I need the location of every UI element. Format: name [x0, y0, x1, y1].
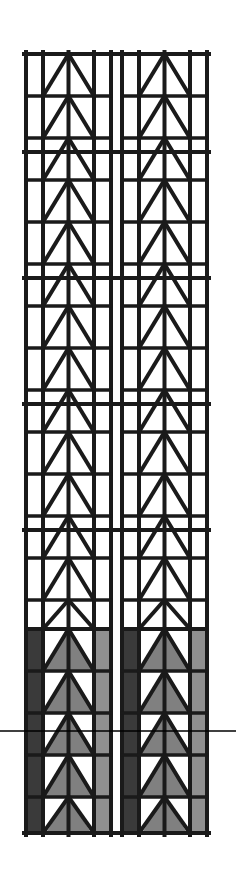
diagram-root — [0, 0, 236, 876]
truss-diagram — [0, 0, 236, 876]
panel-gap-lower — [113, 629, 120, 835]
